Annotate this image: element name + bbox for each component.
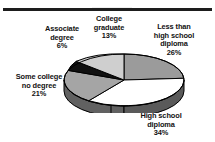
slice-label-less-than-high-school-diploma: Less than high school diploma 26% [141, 23, 207, 57]
slice-label-high-school-diploma: High school diploma 34% [117, 112, 205, 138]
slice-label-line: diploma [160, 39, 188, 48]
slice-value: 34% [117, 129, 205, 138]
cropped-title-remnant [92, 1, 132, 8]
chart-area: Less than high school diploma 26% Colleg… [0, 11, 215, 142]
slice-value: 6% [32, 42, 92, 51]
slice-value: 26% [141, 49, 207, 58]
pie-chart-figure: Less than high school diploma 26% Colleg… [0, 0, 215, 142]
slice-label-some-college-no-degree: Some college no degree 21% [2, 73, 76, 99]
slice-value: 21% [2, 90, 76, 99]
slice-label-associate-degree: Associate degree 6% [32, 25, 92, 51]
